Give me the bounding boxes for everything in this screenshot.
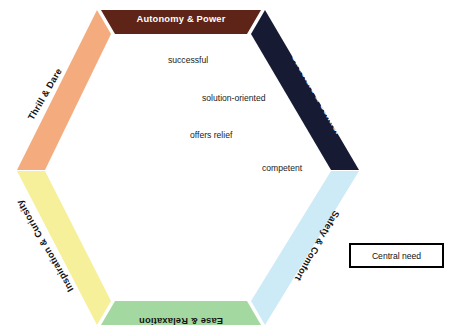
segment-autonomy-power-label: Autonomy & Power: [136, 14, 225, 24]
center-word-successful: successful: [168, 55, 208, 65]
legend-central-need[interactable]: Central need: [349, 243, 444, 268]
segment-inspiration-curiosity[interactable]: Inspiration & Curiosity: [14, 171, 111, 325]
segment-safety-comfort-shape: [251, 171, 359, 325]
legend-central-need-label: Central need: [372, 251, 421, 261]
segment-thrill-dare-shape: [17, 10, 111, 170]
center-word-offers-relief: offers relief: [190, 130, 232, 140]
segment-inspiration-curiosity-shape: [17, 171, 111, 325]
center-word-solution-oriented: solution-oriented: [202, 93, 266, 103]
segment-structure-control-shape: [251, 10, 359, 170]
center-word-competent: competent: [262, 163, 302, 173]
segment-ease-relaxation[interactable]: Ease & Relaxation: [101, 301, 261, 326]
segment-safety-comfort[interactable]: Safety & Comfort: [251, 171, 359, 325]
segment-structure-control[interactable]: Structure & Control: [251, 10, 359, 170]
segment-thrill-dare[interactable]: Thrill & Dare: [17, 10, 111, 170]
hexagon-svg: Autonomy & Power Structure & Control Saf…: [0, 0, 456, 334]
segment-autonomy-power[interactable]: Autonomy & Power: [101, 10, 261, 34]
hexagon-diagram: Autonomy & Power Structure & Control Saf…: [0, 0, 456, 334]
segment-ease-relaxation-label: Ease & Relaxation: [139, 316, 223, 326]
